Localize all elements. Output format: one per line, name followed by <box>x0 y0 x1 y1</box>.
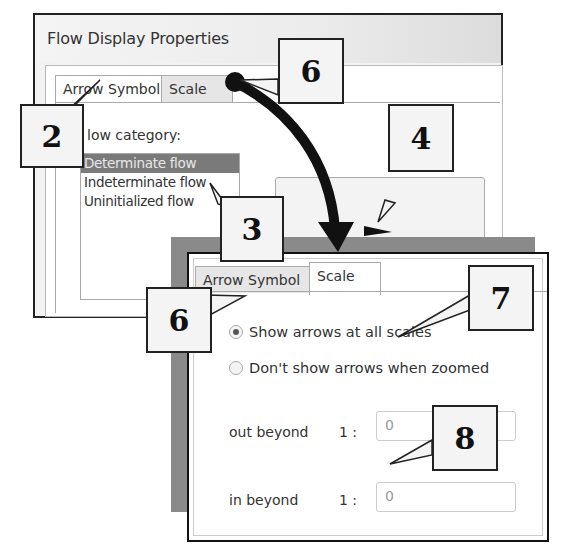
callout-6-bottom: 6 <box>146 287 212 353</box>
callout-3: 3 <box>220 196 284 262</box>
callout-8: 8 <box>432 405 498 471</box>
callout-2: 2 <box>20 104 84 168</box>
arrow-symbol-glyph-icon <box>364 226 392 236</box>
callout-7: 7 <box>468 265 534 331</box>
callout-6-top: 6 <box>278 38 344 104</box>
callout-4: 4 <box>388 104 454 172</box>
